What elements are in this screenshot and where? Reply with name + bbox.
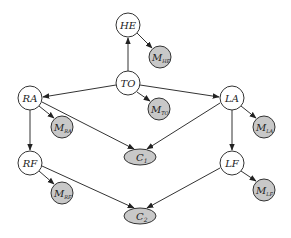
node-m-lf: MLF bbox=[253, 179, 275, 201]
node-label: LA bbox=[224, 93, 239, 104]
node-label: HE bbox=[119, 20, 137, 31]
edge-lf-mlf bbox=[241, 171, 256, 181]
node-to: TO bbox=[116, 71, 140, 95]
node-label: RF bbox=[22, 158, 39, 169]
node-m-he: MHE bbox=[149, 46, 171, 68]
edge-lf-c2 bbox=[147, 168, 220, 208]
node-c2: C2 bbox=[124, 208, 156, 224]
edge-rf-mrf bbox=[39, 171, 54, 184]
node-m-ra: MRA bbox=[51, 116, 73, 138]
node-m-la: MLA bbox=[253, 116, 275, 138]
node-c1: C1 bbox=[124, 149, 156, 165]
bayesian-network-diagram: HE TO RA LA RF LF MHE MTO MRA MLA MRF bbox=[0, 0, 291, 238]
node-la: LA bbox=[220, 86, 244, 110]
node-label: RA bbox=[22, 93, 38, 104]
edge-to-mto bbox=[137, 92, 150, 101]
node-rf: RF bbox=[18, 151, 42, 175]
node-label: TO bbox=[121, 78, 136, 89]
edge-ra-mra bbox=[39, 106, 54, 118]
node-label: LF bbox=[224, 158, 240, 169]
node-m-to: MTO bbox=[148, 98, 170, 120]
edge-la-mla bbox=[241, 106, 256, 118]
node-lf: LF bbox=[220, 151, 244, 175]
node-he: HE bbox=[116, 13, 140, 37]
edge-to-ra bbox=[43, 85, 116, 97]
edge-to-la bbox=[140, 85, 219, 97]
node-ra: RA bbox=[18, 86, 42, 110]
node-m-rf: MRF bbox=[51, 182, 73, 204]
edge-he-mhe bbox=[137, 33, 152, 48]
